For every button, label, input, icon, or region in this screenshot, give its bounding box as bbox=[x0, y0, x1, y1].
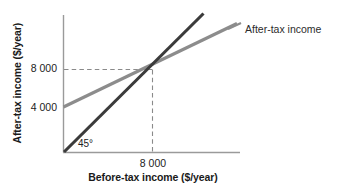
chart-figure: 8 000 4 000 8 000 After-tax income ($/ye… bbox=[0, 0, 337, 190]
y-axis-tick-label-8000: 8 000 bbox=[31, 63, 57, 74]
x-axis-title: Before-tax income ($/year) bbox=[63, 172, 243, 183]
y-axis-title: After-tax income ($/year) bbox=[12, 18, 23, 148]
forty-five-degree-annotation: 45° bbox=[78, 139, 93, 149]
y-axis-tick-label-4000: 4 000 bbox=[31, 102, 57, 113]
x-axis-tick-label-8000: 8 000 bbox=[131, 158, 175, 169]
forty-five-degree-line bbox=[64, 14, 204, 153]
series-label-after-tax-income: After-tax income bbox=[245, 24, 321, 35]
